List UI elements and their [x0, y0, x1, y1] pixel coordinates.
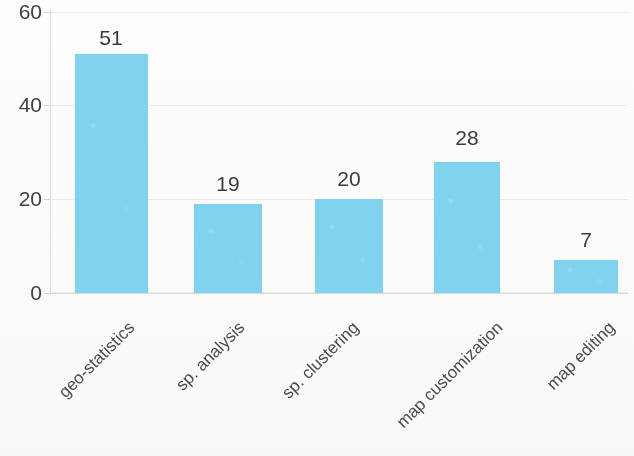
x-axis-category-label-geo-statistics: geo-statistics [37, 318, 140, 421]
bar-map-customization[interactable] [434, 162, 500, 293]
value-label-sp-clustering: 20 [337, 167, 360, 191]
bar-texture [194, 204, 262, 293]
bar-chart: 60 40 20 0 [0, 0, 634, 456]
y-axis-label-group: 60 40 20 0 [0, 0, 42, 456]
bar-texture [434, 162, 500, 293]
y-axis-tick-label-20: 20 [2, 187, 42, 211]
value-label-sp-analysis: 19 [216, 172, 239, 196]
bar-texture [75, 54, 148, 293]
x-axis-category-label-map-editing: map editing [517, 318, 620, 421]
x-axis-category-label-sp-clustering: sp. clustering [261, 318, 364, 421]
x-axis-line [50, 293, 628, 294]
bar-geo-statistics[interactable] [75, 54, 148, 293]
y-axis-tick-label-60: 60 [2, 0, 42, 24]
y-axis-tick-mark-0 [44, 293, 51, 294]
bar-sp-analysis[interactable] [194, 204, 262, 293]
y-axis-tick-label-0: 0 [2, 281, 42, 305]
bar-texture [315, 199, 383, 293]
gridline-60 [50, 12, 628, 13]
plot-area [50, 12, 628, 293]
bar-texture [554, 260, 618, 293]
bar-map-editing[interactable] [554, 260, 618, 293]
value-label-geo-statistics: 51 [99, 26, 122, 50]
value-label-map-editing: 7 [580, 228, 592, 252]
x-axis-category-label-map-customization: map customization [380, 318, 507, 445]
value-label-map-customization: 28 [455, 126, 478, 150]
y-axis-tick-label-40: 40 [2, 93, 42, 117]
x-axis-category-label-sp-analysis: sp. analysis [147, 318, 250, 421]
bar-sp-clustering[interactable] [315, 199, 383, 293]
